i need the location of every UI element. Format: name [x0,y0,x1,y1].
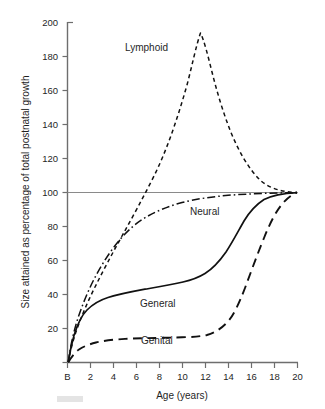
ytick-label-120: 120 [42,153,58,164]
xtick-label-20: 20 [292,371,303,382]
scammon-growth-curves-chart: 20 40 60 80 100 120 140 160 180 200 B 2 … [0,0,325,409]
y-axis-ticks [63,57,68,363]
x-axis-ticks [68,363,298,369]
xtick-label-8: 8 [157,371,162,382]
ytick-label-60: 60 [47,255,58,266]
series-label-general: General [140,298,176,309]
y-axis-title: Size attained as percentage of total pos… [20,76,31,309]
series-curve-lymphoid [68,33,297,362]
xtick-label-12: 12 [200,371,211,382]
ytick-label-20: 20 [47,323,58,334]
xtick-label-B: B [64,371,70,382]
series-label-lymphoid: Lymphoid [125,42,168,53]
ytick-label-160: 160 [42,85,58,96]
xtick-label-10: 10 [177,371,188,382]
chart-figure: 20 40 60 80 100 120 140 160 180 200 B 2 … [0,0,325,409]
ytick-label-180: 180 [42,51,58,62]
ytick-label-40: 40 [47,289,58,300]
xtick-label-2: 2 [88,371,93,382]
ytick-label-80: 80 [47,221,58,232]
ytick-label-200: 200 [42,17,58,28]
xtick-label-18: 18 [269,371,280,382]
series-label-genital: Genital [141,335,173,346]
ytick-label-100: 100 [42,187,58,198]
x-axis-title: Age (years) [156,390,208,401]
xtick-label-16: 16 [246,371,257,382]
series-label-neural: Neural [190,206,219,217]
xtick-label-6: 6 [134,371,139,382]
ytick-label-140: 140 [42,119,58,130]
series-curve-genital [68,193,297,363]
scan-artifact [57,396,83,402]
xtick-label-4: 4 [111,371,116,382]
xtick-label-14: 14 [223,371,234,382]
